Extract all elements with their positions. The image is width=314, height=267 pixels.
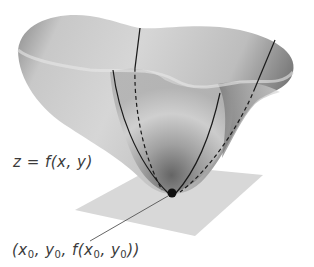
surface-right-lobe [218, 82, 280, 158]
minimum-point [168, 189, 177, 198]
surface-equation-label: z = f(x, y) [13, 153, 93, 171]
surface-minimum-diagram: z = f(x, y) (x0, y0, f(x0, y0)) [0, 0, 314, 267]
surface-illustration [0, 0, 314, 267]
minimum-point-label: (x0, y0, f(x0, y0)) [12, 241, 140, 260]
